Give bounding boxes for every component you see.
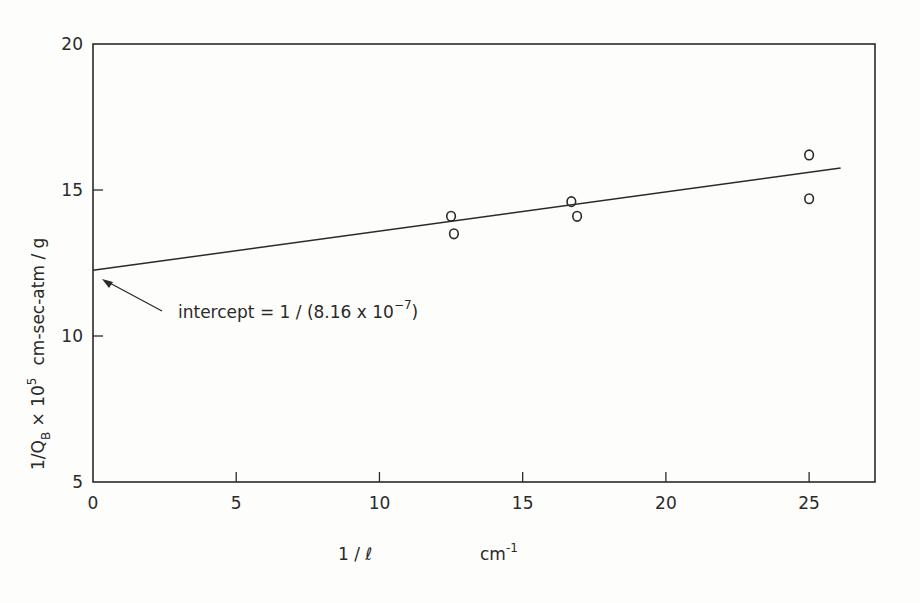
x-tick-label: 15 xyxy=(512,493,534,513)
data-point-circle xyxy=(450,229,459,239)
data-points xyxy=(447,150,814,238)
data-point-circle xyxy=(573,211,582,221)
data-point-circle xyxy=(447,211,456,221)
y-tick-label: 15 xyxy=(61,180,83,200)
x-tick-label: 25 xyxy=(798,493,820,513)
y-tick-label: 5 xyxy=(72,472,83,492)
x-axis-units: cm-1 xyxy=(480,541,518,564)
chart: 0510152025 5101520 intercept = 1 / (8.16… xyxy=(0,0,920,603)
data-point-circle xyxy=(805,150,814,160)
intercept-annotation: intercept = 1 / (8.16 x 10−7) xyxy=(102,279,418,322)
y-axis-label: 1/QB × 105cm-sec-atm / g xyxy=(25,238,53,470)
svg-text:1/QB × 105cm-sec-atm / g: 1/QB × 105cm-sec-atm / g xyxy=(25,238,53,470)
arrow-head-icon xyxy=(102,279,113,288)
y-axis-ticks: 5101520 xyxy=(61,34,103,492)
plot-frame xyxy=(93,44,875,482)
x-tick-label: 10 xyxy=(369,493,391,513)
fit-line xyxy=(93,168,841,270)
x-tick-label: 5 xyxy=(231,493,242,513)
x-tick-label: 0 xyxy=(88,493,99,513)
y-tick-label: 10 xyxy=(61,326,83,346)
y-tick-label: 20 xyxy=(61,34,83,54)
x-tick-label: 20 xyxy=(655,493,677,513)
x-axis-ticks: 0510152025 xyxy=(88,472,820,513)
data-point-circle xyxy=(805,194,814,204)
intercept-label: intercept = 1 / (8.16 x 10−7) xyxy=(178,298,418,322)
x-axis-label: 1 / ℓ xyxy=(338,544,372,564)
